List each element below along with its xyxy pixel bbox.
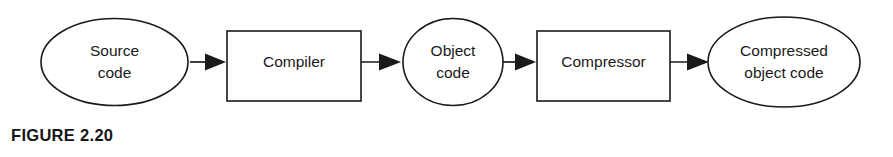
- node-compressor-label: Compressor: [561, 53, 645, 70]
- node-compressed-object-code-shape: [708, 17, 860, 107]
- node-source-code: Source code: [41, 19, 188, 106]
- node-source-code-label-line2: code: [98, 64, 132, 81]
- edge-object-code-to-compressor-arrowhead: [515, 54, 536, 71]
- node-compressed-object-code-label-line1: Compressed: [740, 42, 828, 59]
- node-compressed-object-code-label-line2: object code: [744, 64, 823, 81]
- node-compiler-label: Compiler: [263, 53, 325, 70]
- node-source-code-shape: [41, 19, 188, 106]
- node-compiler: Compiler: [227, 31, 361, 101]
- node-compressed-object-code: Compressed object code: [708, 17, 860, 107]
- node-object-code: Object code: [403, 19, 503, 106]
- node-compressor: Compressor: [537, 31, 670, 101]
- edge-object-code-to-compressor: [503, 54, 536, 71]
- node-object-code-label-line1: Object: [431, 42, 476, 59]
- node-object-code-shape: [403, 19, 503, 106]
- edge-compressor-to-compressed-object-code: [670, 54, 709, 71]
- figure-container: Source code Compiler Object code: [0, 0, 893, 157]
- node-source-code-label-line1: Source: [90, 42, 139, 59]
- edge-compiler-to-object-code-arrowhead: [379, 54, 401, 71]
- edge-source-to-compiler-arrowhead: [205, 54, 226, 71]
- edge-source-to-compiler: [190, 54, 226, 71]
- flowchart-canvas: Source code Compiler Object code: [0, 0, 893, 120]
- node-object-code-label-line2: code: [436, 64, 470, 81]
- edge-compiler-to-object-code: [361, 54, 401, 71]
- figure-caption: FIGURE 2.20: [11, 126, 113, 145]
- edge-compressor-to-compressed-object-code-arrowhead: [687, 54, 709, 71]
